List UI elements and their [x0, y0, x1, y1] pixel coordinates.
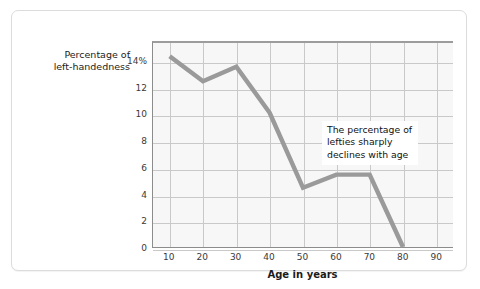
y-tick-label: 6 [107, 163, 147, 173]
chart-annotation: The percentage of lefties sharply declin… [322, 121, 418, 165]
gridline-horizontal [153, 250, 453, 251]
x-axis-tick-labels: 102030405060708090 [152, 252, 453, 266]
y-tick-label: 8 [107, 136, 147, 146]
x-tick-label: 90 [416, 252, 456, 262]
y-tick-label: 0 [107, 243, 147, 253]
y-tick-label: 10 [107, 109, 147, 119]
chart-card: Percentage of left-handedness 0246810121… [11, 10, 467, 271]
y-tick-label: 12 [107, 83, 147, 93]
y-tick-label: 4 [107, 190, 147, 200]
y-axis-tick-labels: 02468101214% [105, 41, 147, 248]
y-tick-label: 14% [107, 56, 147, 66]
x-axis-title: Age in years [152, 269, 453, 280]
y-tick-label: 2 [107, 216, 147, 226]
